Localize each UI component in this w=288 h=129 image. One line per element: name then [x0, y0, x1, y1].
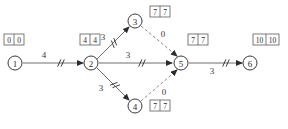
- node-label-4: 4: [133, 102, 138, 112]
- node-1[interactable]: 1: [8, 56, 22, 70]
- edge-label-2-3: 3: [101, 32, 106, 42]
- time-box-node-2: 44: [80, 34, 100, 45]
- earliest-time-value: 10: [256, 36, 264, 45]
- node-label-6: 6: [248, 59, 253, 69]
- latest-time-value: 4: [93, 36, 97, 45]
- time-box-node-4: 77: [150, 100, 170, 111]
- edge-3-to-5: [141, 26, 177, 56]
- earliest-time-value: 4: [83, 36, 87, 45]
- latest-time-value: 0: [17, 36, 21, 45]
- earliest-time-value: 7: [153, 8, 157, 17]
- latest-time-value: 7: [163, 8, 167, 17]
- time-box-node-3: 77: [150, 6, 170, 17]
- node-label-3: 3: [133, 17, 138, 27]
- node-label-5: 5: [179, 59, 184, 69]
- earliest-time-value: 0: [7, 36, 11, 45]
- node-6[interactable]: 6: [243, 56, 257, 70]
- edge-label-2-5: 3: [126, 50, 131, 60]
- node-2[interactable]: 2: [84, 56, 98, 70]
- edge-4-to-5: [141, 70, 177, 101]
- node-5[interactable]: 5: [174, 56, 188, 70]
- edge-label-4-5: 0: [162, 87, 167, 97]
- time-box-node-1: 00: [4, 34, 24, 45]
- node-3[interactable]: 3: [128, 14, 142, 28]
- latest-time-value: 7: [201, 36, 205, 45]
- latest-time-value: 10: [269, 36, 277, 45]
- edge-label-2-4: 3: [99, 83, 104, 93]
- edge-label-1-2: 4: [42, 50, 47, 60]
- time-box-node-5: 77: [188, 34, 208, 45]
- latest-time-value: 7: [163, 102, 167, 111]
- node-label-2: 2: [89, 59, 94, 69]
- time-box-node-6: 1010: [253, 34, 279, 45]
- network-diagram-canvas: 4333003 00447777101077 123456: [0, 0, 288, 129]
- earliest-time-value: 7: [191, 36, 195, 45]
- node-label-1: 1: [13, 59, 18, 69]
- network-diagram: 4333003 00447777101077 123456: [0, 0, 288, 129]
- node-4[interactable]: 4: [128, 99, 142, 113]
- edge-label-5-6: 3: [210, 66, 215, 76]
- earliest-time-value: 7: [153, 102, 157, 111]
- edges-group: [23, 26, 242, 101]
- edge-label-3-5: 0: [161, 29, 166, 39]
